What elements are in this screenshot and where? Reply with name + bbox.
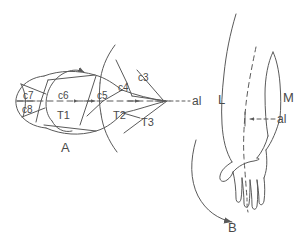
label-c5: c5 bbox=[97, 90, 108, 101]
caption-a: A bbox=[61, 140, 70, 155]
label-c8: c8 bbox=[22, 104, 33, 115]
label-T2: T2 bbox=[113, 109, 126, 121]
anatomical-diagram: c7 c8 c6 c5 c4 c3 T1 T2 T3 al A L M al B bbox=[0, 0, 305, 236]
label-T1: T1 bbox=[57, 109, 70, 121]
label-c3: c3 bbox=[138, 72, 149, 83]
caption-b: B bbox=[228, 220, 237, 235]
label-al-b: al bbox=[277, 112, 286, 126]
diagram-canvas: c7 c8 c6 c5 c4 c3 T1 T2 T3 al A L M al B bbox=[0, 0, 305, 236]
axial-marker-b bbox=[245, 112, 275, 126]
label-al-a: al bbox=[192, 94, 201, 108]
label-c6: c6 bbox=[58, 90, 69, 101]
label-T3: T3 bbox=[141, 116, 154, 128]
label-L: L bbox=[218, 92, 225, 107]
label-M: M bbox=[283, 90, 294, 105]
label-c4: c4 bbox=[118, 82, 129, 93]
hand-digits bbox=[233, 150, 267, 209]
label-c7: c7 bbox=[23, 90, 34, 101]
upper-limb-outline bbox=[220, 14, 281, 181]
